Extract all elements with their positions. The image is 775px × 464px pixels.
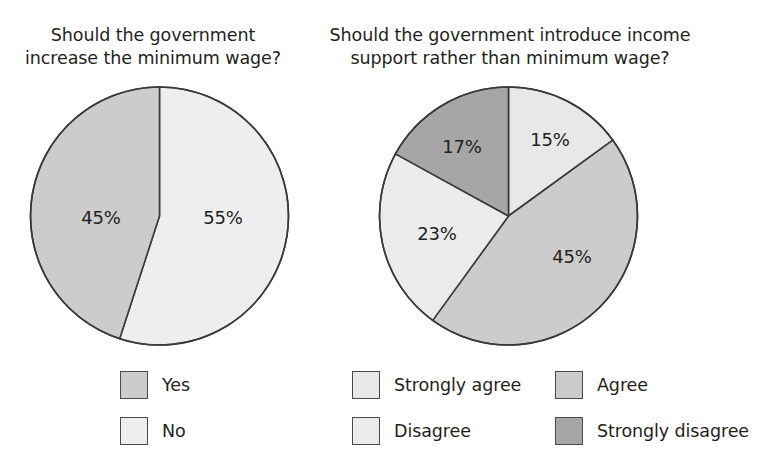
legend-item-strongly-disagree[interactable]: Strongly disagree [555,417,749,445]
legend-label: Strongly agree [394,375,521,395]
legend-swatch-icon [555,417,583,445]
legend-label: Yes [162,375,190,395]
chart-figure: Should the government increase the minim… [0,0,775,464]
slice-percent-label: 45% [81,207,120,228]
legend-swatch-icon [555,371,583,399]
legend-label: No [162,421,186,441]
legend-item-strongly-agree[interactable]: Strongly agree [352,371,521,399]
legend-label: Disagree [394,421,471,441]
legend-item-yes[interactable]: Yes [120,371,190,399]
chart-title-minimum-wage: Should the government increase the minim… [8,24,298,70]
legend-item-agree[interactable]: Agree [555,371,648,399]
legend-swatch-icon [352,417,380,445]
legend-swatch-icon [352,371,380,399]
chart-title-income-support: Should the government introduce income s… [300,24,720,70]
legend-item-disagree[interactable]: Disagree [352,417,471,445]
legend-swatch-icon [120,371,148,399]
legend-item-no[interactable]: No [120,417,186,445]
slice-percent-label: 23% [417,223,456,244]
slice-percent-label: 15% [530,129,569,150]
slice-percent-label: 17% [442,136,481,157]
legend-swatch-icon [120,417,148,445]
legend-label: Agree [597,375,648,395]
slice-percent-label: 45% [552,246,591,267]
legend-label: Strongly disagree [597,421,749,441]
slice-percent-label: 55% [203,207,242,228]
